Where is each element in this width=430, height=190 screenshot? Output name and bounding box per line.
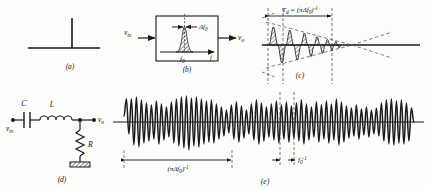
panel-letter-e: (e) — [261, 177, 270, 186]
panel-letter-b: (b) — [183, 65, 192, 74]
inductor-symbol — [40, 116, 72, 120]
panel-a-impulse: (a) — [28, 18, 100, 71]
envelope-lower-ext — [352, 45, 392, 58]
panel-d-rlc-circuit: vin C L vo R (d) — [6, 99, 104, 184]
v-in-label-b: vin — [124, 28, 132, 38]
envelope-upper-ext — [352, 32, 392, 45]
ground-symbol — [70, 162, 90, 167]
bandwidth-label-b: Δf0 — [198, 23, 208, 32]
envelope-upper — [266, 22, 352, 45]
resistor-label: R — [87, 140, 93, 149]
center-frequency-label-b: f0 — [180, 55, 185, 64]
inductor-label: L — [49, 100, 55, 109]
figure-canvas: (a) vin f Δf0 f0 vo (b) — [0, 0, 430, 190]
envelope-upper-left-tick — [262, 13, 275, 18]
panel-c-damped-response: Td = (πΔf0)-1 (c) — [262, 5, 420, 84]
input-node-d — [11, 118, 15, 122]
resistor-symbol — [76, 130, 84, 156]
v-in-label-d: vin — [6, 124, 14, 134]
f-axis-label: f — [210, 54, 213, 61]
v-o-label-b: vo — [238, 33, 244, 43]
capacitor-symbol — [24, 112, 30, 128]
damped-oscillation-lobes — [269, 27, 341, 63]
envelope-lower-left-tick — [262, 72, 275, 77]
capacitor-label: C — [21, 99, 27, 108]
td-label: Td = (πΔf0)-1 — [282, 5, 318, 15]
correlation-time-label: (πΔf0)-1 — [167, 164, 189, 174]
panel-b-filter: vin f Δf0 f0 vo (b) — [124, 14, 244, 74]
v-o-label-d: vo — [98, 115, 104, 125]
noise-signal-trace — [124, 96, 414, 150]
panel-letter-a: (a) — [66, 62, 75, 71]
panel-letter-c: (c) — [296, 71, 305, 80]
period-label: f0-1 — [298, 155, 307, 164]
panel-letter-d: (d) — [58, 175, 67, 184]
figure-root: (a) vin f Δf0 f0 vo (b) — [0, 0, 430, 190]
panel-e-noise-waveform: (πΔf0)-1 f0-1 (e) — [113, 92, 424, 186]
output-terminal-d — [92, 118, 96, 122]
